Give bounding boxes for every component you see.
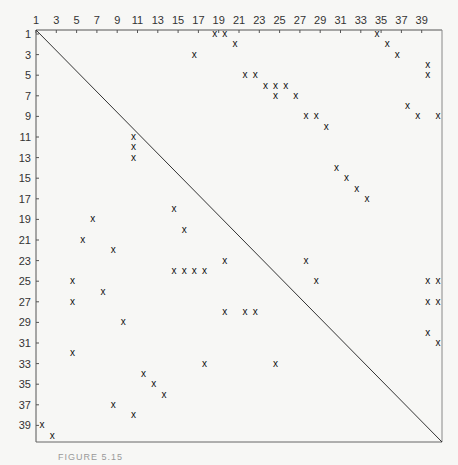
matrix-entry-mark: x <box>425 327 430 338</box>
x-tick-label: 29 <box>314 14 326 26</box>
x-tick-label: 7 <box>94 14 100 26</box>
y-tick-label: 3 <box>25 49 31 61</box>
matrix-entry-mark: x <box>70 296 75 307</box>
y-tick-label: 5 <box>25 69 31 81</box>
matrix-entry-mark: x <box>121 316 126 327</box>
matrix-entry-mark: x <box>425 296 430 307</box>
x-tick-label: 9 <box>114 14 120 26</box>
x-tick-label: 15 <box>172 14 184 26</box>
matrix-entry-mark: x <box>283 80 288 91</box>
x-tick-label: 13 <box>152 14 164 26</box>
matrix-entry-mark: x <box>253 69 258 80</box>
matrix-entry-mark: x <box>222 306 227 317</box>
matrix-entry-mark: x <box>141 368 146 379</box>
matrix-entry-mark: x <box>364 193 369 204</box>
matrix-entry-mark: x <box>232 38 237 49</box>
y-tick-label: 39 <box>19 419 31 431</box>
y-tick-label: 19 <box>19 213 31 225</box>
matrix-entry-mark: x <box>182 265 187 276</box>
matrix-entry-mark: x <box>354 183 359 194</box>
matrix-entry-mark: x <box>243 69 248 80</box>
matrix-entry-mark: x <box>70 347 75 358</box>
x-tick-label: 33 <box>355 14 367 26</box>
matrix-entry-mark: x <box>151 378 156 389</box>
sparse-matrix-plot: 13579111315171921232527293133353739 1357… <box>0 0 458 465</box>
x-tick-label: 39 <box>416 14 428 26</box>
matrix-entry-mark: x <box>303 255 308 266</box>
y-tick-label: 13 <box>19 152 31 164</box>
y-tick-label: 1 <box>25 28 31 40</box>
matrix-entry-mark: x <box>415 110 420 121</box>
matrix-entry-mark: x <box>202 358 207 369</box>
matrix-entry-mark: x <box>131 152 136 163</box>
x-tick-label: 31 <box>334 14 346 26</box>
matrix-entry-mark: x <box>111 399 116 410</box>
matrix-entry-mark: x <box>50 430 55 441</box>
matrix-entry-mark: x <box>161 389 166 400</box>
matrix-entry-mark: x <box>172 265 177 276</box>
matrix-entry-mark: x <box>212 28 217 39</box>
matrix-entry-mark: x <box>222 28 227 39</box>
x-tick-label: 11 <box>132 14 143 26</box>
x-tick-label: 5 <box>74 14 80 26</box>
y-tick-label: 37 <box>19 399 31 411</box>
matrix-entry-mark: x <box>273 90 278 101</box>
matrix-entry-mark: x <box>293 90 298 101</box>
x-tick-label: 17 <box>192 14 204 26</box>
matrix-entry-mark: x <box>131 409 136 420</box>
matrix-entry-mark: x <box>314 275 319 286</box>
x-tick-label: 3 <box>53 14 59 26</box>
x-tick-label: 1 <box>33 14 39 26</box>
y-tick-label: 27 <box>19 296 31 308</box>
y-tick-label: 17 <box>19 193 31 205</box>
y-tick-label: 21 <box>19 234 31 246</box>
matrix-entry-mark: x <box>303 110 308 121</box>
x-tick-label: 35 <box>375 14 387 26</box>
matrix-entry-mark: x <box>435 275 440 286</box>
x-tick-label: 27 <box>294 14 306 26</box>
y-tick-label: 31 <box>19 337 31 349</box>
matrix-entry-mark: x <box>324 121 329 132</box>
matrix-entry-mark: x <box>40 419 45 430</box>
y-tick-label: 11 <box>20 131 31 143</box>
matrix-entry-mark: x <box>435 296 440 307</box>
x-tick-label: 25 <box>273 14 285 26</box>
matrix-entry-mark: x <box>435 337 440 348</box>
matrix-entry-mark: x <box>100 286 105 297</box>
matrix-entry-mark: x <box>405 100 410 111</box>
x-tick-label: 23 <box>253 14 265 26</box>
y-tick-label: 7 <box>25 90 31 102</box>
y-tick-label: 23 <box>19 255 31 267</box>
matrix-entry-mark: x <box>375 28 380 39</box>
matrix-entry-mark: x <box>385 38 390 49</box>
figure-caption: FIGURE 5.15 <box>58 452 123 462</box>
matrix-entry-mark: x <box>80 234 85 245</box>
x-tick-label: 19 <box>213 14 225 26</box>
matrix-entry-mark: x <box>90 213 95 224</box>
matrix-entry-mark: x <box>334 162 339 173</box>
x-tick-label: 37 <box>395 14 407 26</box>
matrix-entry-mark: x <box>70 275 75 286</box>
y-tick-label: 9 <box>25 110 31 122</box>
matrix-entry-mark: x <box>202 265 207 276</box>
y-tick-label: 29 <box>19 316 31 328</box>
y-tick-label: 35 <box>19 378 31 390</box>
diagonal-line <box>36 30 442 442</box>
matrix-entry-mark: x <box>263 80 268 91</box>
matrix-entry-mark: x <box>243 306 248 317</box>
matrix-entry-mark: x <box>192 265 197 276</box>
x-tick-label: 21 <box>233 14 245 26</box>
matrix-entry-mark: x <box>182 224 187 235</box>
matrix-entry-mark: x <box>111 244 116 255</box>
matrix-entry-mark: x <box>314 110 319 121</box>
matrix-entry-mark: x <box>435 110 440 121</box>
y-tick-label: 25 <box>19 275 31 287</box>
matrix-entry-mark: x <box>222 255 227 266</box>
matrix-entry-mark: x <box>395 49 400 60</box>
matrix-entry-mark: x <box>192 49 197 60</box>
matrix-entry-mark: x <box>425 275 430 286</box>
matrix-entry-mark: x <box>253 306 258 317</box>
matrix-entry-mark: x <box>344 172 349 183</box>
matrix-entry-mark: x <box>273 358 278 369</box>
y-tick-label: 15 <box>19 172 31 184</box>
